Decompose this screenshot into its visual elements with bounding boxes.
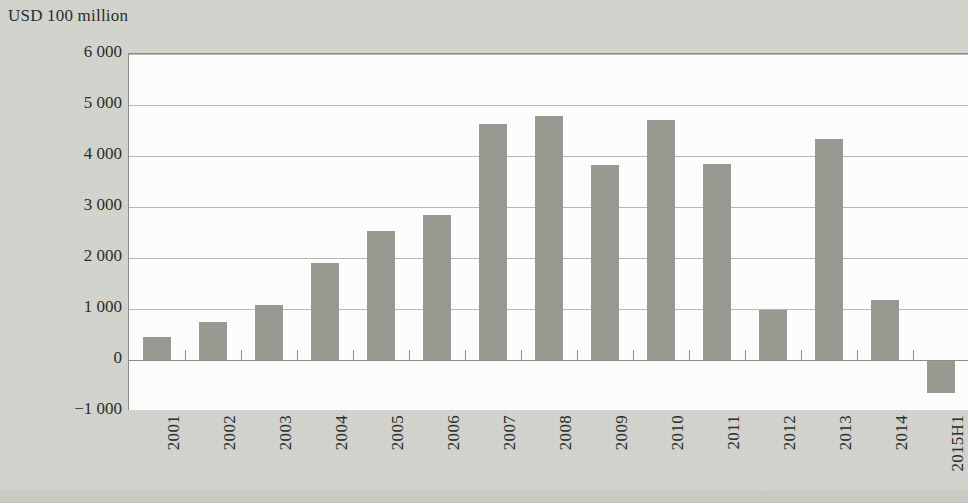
zero-axis-line — [129, 360, 968, 361]
y-axis-tick-label: −1 000 — [4, 399, 122, 419]
axis-tick — [745, 350, 746, 360]
axis-tick — [185, 350, 186, 360]
bar — [927, 360, 955, 393]
axis-tick — [465, 350, 466, 360]
gridline — [129, 105, 968, 106]
x-axis-labels: 2001200220032004200520062007200820092010… — [128, 411, 968, 503]
x-axis-tick-label: 2005 — [388, 415, 408, 450]
y-axis-tick-label: 3 000 — [4, 195, 122, 215]
y-axis-labels: 6 0005 0004 0003 0002 0001 0000−1 000 — [0, 53, 122, 410]
bar — [367, 231, 395, 360]
y-axis-tick-label: 2 000 — [4, 246, 122, 266]
y-axis-tick-label: 1 000 — [4, 297, 122, 317]
x-axis-tick-label: 2001 — [164, 415, 184, 450]
y-axis-tick-label: 0 — [4, 348, 122, 368]
bar — [479, 124, 507, 360]
y-axis-tick-label: 6 000 — [4, 42, 122, 62]
chart-title: USD 100 million — [8, 6, 128, 26]
axis-tick — [297, 350, 298, 360]
axis-tick — [521, 350, 522, 360]
axis-tick — [633, 350, 634, 360]
bar — [143, 337, 171, 360]
axis-tick — [409, 350, 410, 360]
axis-tick — [689, 350, 690, 360]
x-axis-tick-label: 2008 — [556, 415, 576, 450]
chart-figure: USD 100 million 6 0005 0004 0003 0002 00… — [0, 0, 968, 503]
bar — [647, 120, 675, 360]
axis-tick — [801, 350, 802, 360]
bar — [423, 215, 451, 360]
x-axis-tick-label: 2015H1 — [948, 415, 968, 472]
bar — [871, 300, 899, 360]
x-axis-tick-label: 2004 — [332, 415, 352, 450]
axis-tick — [241, 350, 242, 360]
x-axis-tick-label: 2007 — [500, 415, 520, 450]
plot-inner — [129, 54, 968, 410]
bar — [535, 116, 563, 360]
plot-area — [128, 53, 968, 410]
gridline — [129, 54, 968, 55]
x-axis-tick-label: 2013 — [836, 415, 856, 450]
axis-tick — [577, 350, 578, 360]
x-axis-tick-label: 2012 — [780, 415, 800, 450]
bar — [591, 165, 619, 360]
x-axis-tick-label: 2009 — [612, 415, 632, 450]
axis-tick — [857, 350, 858, 360]
bar — [759, 310, 787, 360]
x-axis-tick-label: 2010 — [668, 415, 688, 450]
bar — [815, 139, 843, 360]
bar — [199, 322, 227, 360]
y-axis-tick-label: 4 000 — [4, 144, 122, 164]
y-axis-tick-label: 5 000 — [4, 93, 122, 113]
x-axis-tick-label: 2003 — [276, 415, 296, 450]
axis-tick — [353, 350, 354, 360]
bar — [255, 305, 283, 360]
bar — [311, 263, 339, 360]
axis-tick — [913, 350, 914, 360]
x-axis-tick-label: 2014 — [892, 415, 912, 450]
x-axis-tick-label: 2002 — [220, 415, 240, 450]
x-axis-tick-label: 2006 — [444, 415, 464, 450]
x-axis-tick-label: 2011 — [724, 415, 744, 450]
bar — [703, 164, 731, 360]
